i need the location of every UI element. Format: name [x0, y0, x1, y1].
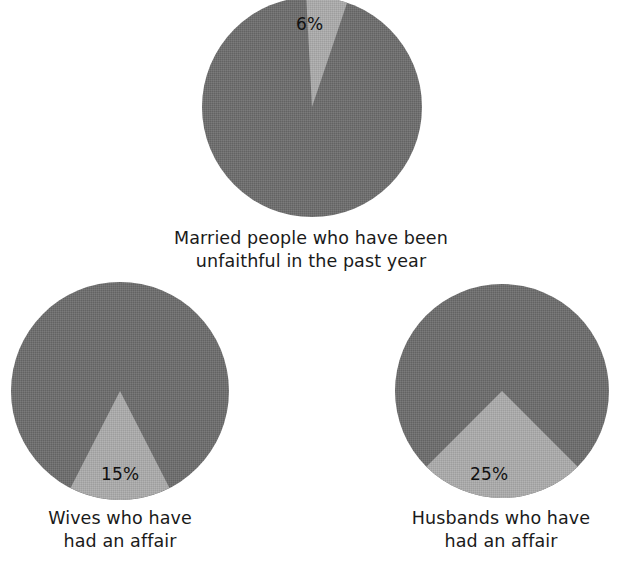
pie-caption-wives: Wives who have had an affair — [15, 507, 225, 553]
pie-value-label-married: 6% — [296, 16, 323, 33]
pie-value-label-wives: 15% — [101, 466, 139, 483]
pie-caption-married: Married people who have been unfaithful … — [141, 227, 481, 273]
pie-value-label-husbands: 25% — [470, 466, 508, 483]
pie-caption-husbands: Husbands who have had an affair — [390, 507, 612, 553]
pie-chart-figure: 6% Married people who have been unfaithf… — [0, 0, 621, 577]
